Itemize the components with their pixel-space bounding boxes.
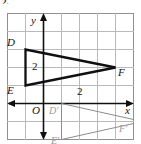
y-axis-label: y xyxy=(31,15,36,26)
x-axis-label: x xyxy=(125,105,130,116)
vertex-label-E: E xyxy=(7,85,14,96)
vertex-label-D-prime: D' xyxy=(49,105,58,116)
measure-label-de: 2 xyxy=(32,61,38,72)
figure-page: 2. xyxy=(0,0,141,144)
vertex-label-F-prime: F' xyxy=(119,123,127,134)
origin-label: O xyxy=(32,105,40,116)
caption-text: 2. xyxy=(2,0,9,4)
coordinate-plane-svg xyxy=(7,13,134,140)
vertex-label-F: F xyxy=(118,67,125,78)
vertex-label-D: D xyxy=(7,37,15,48)
coordinate-plane: D E F D' E' F' O x y 2 2 xyxy=(7,13,134,140)
measure-label-x: 2 xyxy=(77,86,83,97)
vertex-label-E-prime: E' xyxy=(51,135,59,144)
